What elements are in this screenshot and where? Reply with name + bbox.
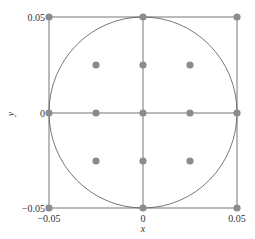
point bbox=[139, 157, 146, 164]
x-tick-label: −0.05 bbox=[37, 213, 60, 224]
point bbox=[45, 204, 52, 211]
point bbox=[233, 109, 240, 116]
y-tick-label: 0 bbox=[40, 108, 45, 119]
x-axis-label: x bbox=[140, 223, 146, 234]
point bbox=[139, 109, 146, 116]
point bbox=[139, 204, 146, 211]
point bbox=[233, 204, 240, 211]
point bbox=[45, 13, 52, 20]
point bbox=[186, 109, 193, 116]
x-tick-label: 0.05 bbox=[228, 213, 246, 224]
point bbox=[139, 13, 146, 20]
y-axis-label: y bbox=[5, 111, 16, 117]
point bbox=[92, 61, 99, 68]
diagram-canvas: 0.05 0 −0.05 y −0.05 0 0.05 x bbox=[0, 0, 255, 239]
point bbox=[92, 157, 99, 164]
point bbox=[45, 109, 52, 116]
y-tick-label: 0.05 bbox=[28, 12, 46, 23]
point bbox=[92, 109, 99, 116]
point bbox=[233, 13, 240, 20]
point bbox=[139, 61, 146, 68]
point bbox=[186, 61, 193, 68]
point bbox=[186, 157, 193, 164]
